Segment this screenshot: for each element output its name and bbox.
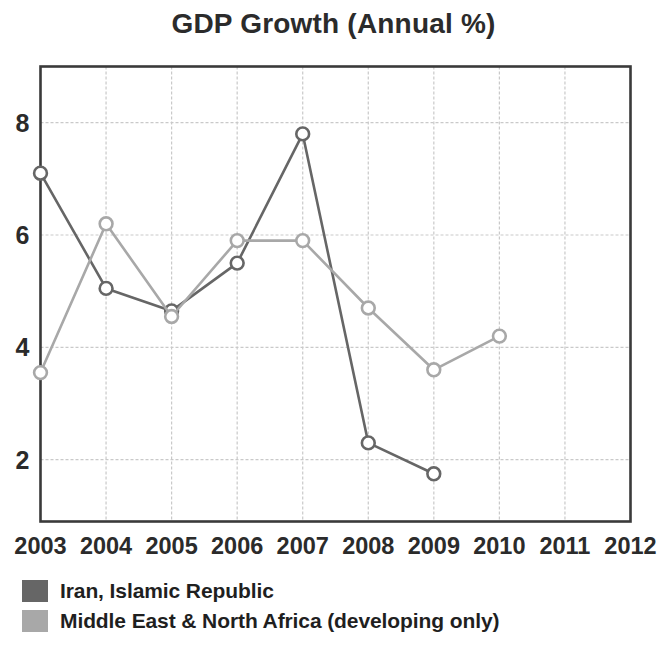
x-axis-tick-labels: 2003200420052006200720082009201020112012	[14, 533, 656, 559]
series-marker-0	[362, 437, 375, 450]
plot-area: 2468 20032004200520062007200820092010201…	[0, 0, 667, 646]
y-tick-label: 2	[16, 446, 30, 474]
series-marker-1	[427, 363, 440, 376]
series-marker-1	[165, 310, 178, 323]
series-marker-1	[493, 330, 506, 343]
series-marker-1	[100, 217, 113, 230]
x-tick-label: 2010	[473, 533, 525, 559]
y-tick-label: 4	[16, 333, 30, 361]
legend-swatch-icon	[22, 580, 48, 602]
y-tick-label: 8	[16, 109, 30, 137]
legend-item[interactable]: Iran, Islamic Republic	[22, 576, 662, 606]
y-axis-tick-labels: 2468	[16, 109, 30, 474]
series-marker-0	[296, 127, 309, 140]
x-tick-label: 2009	[408, 533, 460, 559]
x-tick-label: 2011	[539, 533, 590, 559]
gdp-growth-chart: GDP Growth (Annual %) 2468 2003200420052…	[0, 0, 667, 646]
x-tick-label: 2012	[604, 533, 656, 559]
y-tick-label: 6	[16, 221, 30, 249]
x-tick-label: 2004	[80, 533, 132, 559]
x-tick-label: 2007	[277, 533, 329, 559]
series-marker-0	[34, 167, 47, 180]
legend-label: Middle East & North Africa (developing o…	[60, 609, 499, 633]
x-tick-label: 2005	[145, 533, 197, 559]
x-tick-label: 2006	[211, 533, 263, 559]
series-marker-1	[231, 234, 244, 247]
legend-item[interactable]: Middle East & North Africa (developing o…	[22, 606, 662, 636]
series-marker-0	[100, 282, 113, 295]
x-tick-label: 2003	[14, 533, 66, 559]
series-marker-1	[362, 302, 375, 315]
series-marker-0	[427, 467, 440, 480]
data-series-layer	[34, 127, 506, 480]
series-marker-1	[34, 366, 47, 379]
legend-label: Iran, Islamic Republic	[60, 579, 274, 603]
series-marker-0	[231, 257, 244, 270]
legend-swatch-icon	[22, 610, 48, 632]
series-marker-1	[296, 234, 309, 247]
x-tick-label: 2008	[342, 533, 394, 559]
series-line-1	[41, 224, 500, 373]
chart-legend: Iran, Islamic RepublicMiddle East & Nort…	[22, 576, 662, 636]
